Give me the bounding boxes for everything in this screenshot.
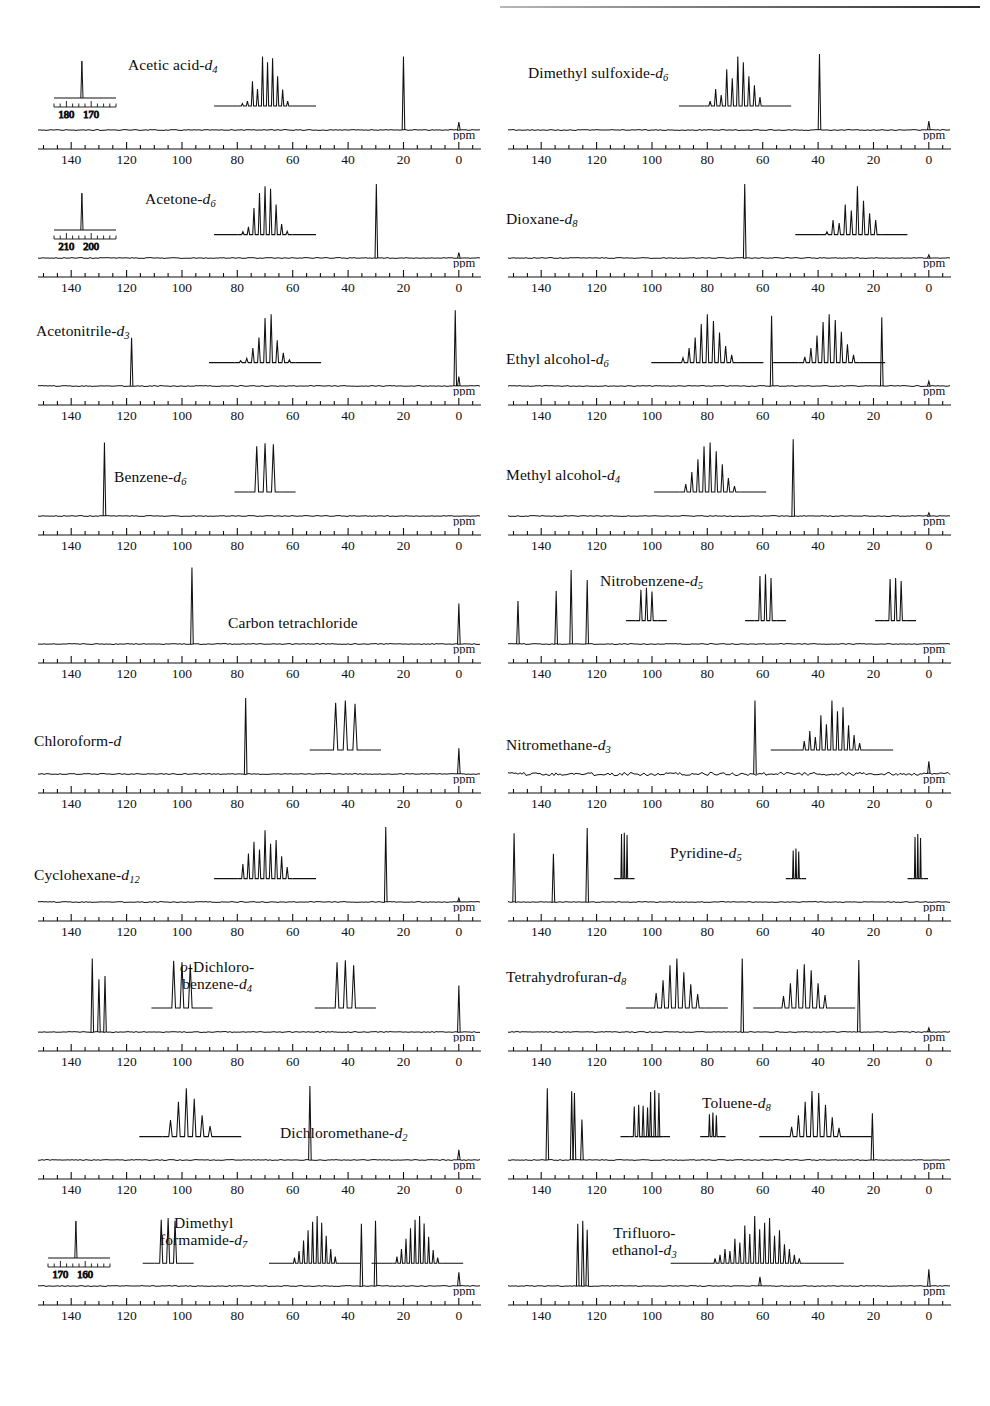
spectrum-peak [98,979,101,1032]
expansion-multiplet [649,958,704,1008]
axis-line-and-ticks [38,1298,481,1305]
spectrum-peak [103,442,106,516]
axis-tick-label: 20 [397,280,411,295]
axis-tick-label: 60 [286,1054,300,1069]
axis-line-and-ticks [508,1044,951,1051]
ppm-axis: 140120100806040200 [32,912,487,942]
ppm-unit-label: ppm [923,384,946,396]
inset-tick-label: 160 [77,1269,93,1280]
spectrum-peak [552,854,555,902]
spectrum-peak [880,317,883,386]
spectrum-peak [792,439,795,516]
axis-tick-label: 20 [867,666,881,681]
axis-tick-label: 120 [116,1054,137,1069]
axis-tick-label: 100 [172,152,193,167]
solvent-name-label: Cyclohexane-d12 [34,866,140,885]
spectrum-plot: ppmDichloromethane-d2 [32,1072,487,1170]
axis-tick-label: 40 [341,280,355,295]
ppm-axis: 140120100806040200 [502,1170,957,1200]
axis-tick-label: 40 [811,796,825,811]
solvent-name-label: Dioxane-d8 [506,210,578,229]
axis-line-and-ticks [508,528,951,535]
expansion-multiplet [635,588,657,621]
axis-tick-label: 80 [231,1182,245,1197]
baseline [508,902,950,903]
axis-tick-label: 40 [811,152,825,167]
spectrum-peak [458,748,461,774]
spectrum-plot: ppmCarbon tetrachloride [32,556,487,654]
axis-tick-label: 100 [172,280,193,295]
axis-tick-label: 120 [116,924,137,939]
spectrum-peak [743,184,746,258]
spectrum-peak [191,568,194,644]
spectrum-plot: ppmAcetonitrile-d3 [32,298,487,396]
spectrum-panel: ppmNitromethane-d3140120100806040200 [502,684,957,814]
expansion-multiplet [326,700,365,750]
axis-tick-label: 0 [455,1054,462,1069]
axis-tick-label: 80 [701,538,715,553]
solvent-name-label: Benzene-d6 [114,468,187,487]
axis-tick-label: 120 [116,666,137,681]
axis-tick-label: 40 [341,538,355,553]
ppm-axis: 140120100806040200 [502,526,957,556]
axis-tick-label: 140 [61,924,82,939]
axis-tick-label: 120 [586,666,607,681]
axis-tick-label: 0 [925,1182,932,1197]
axis-tick-label: 100 [642,666,663,681]
axis-tick-label: 20 [867,1308,881,1323]
expansion-multiplet [885,578,907,621]
axis-tick-label: 0 [925,152,932,167]
axis-tick-label: 40 [341,152,355,167]
axis-tick-label: 80 [701,1308,715,1323]
spectrum-peak [586,1230,589,1286]
inset-tick-label: 180 [59,109,75,120]
spectrum-plot: ppmToluene-d8 [502,1072,957,1170]
axis-tick-label: 140 [531,280,552,295]
axis-tick-label: 80 [701,152,715,167]
axis-tick-label: 140 [61,1054,82,1069]
axis-tick-label: 120 [586,1308,607,1323]
axis-line-and-ticks [38,1044,481,1051]
inset-tick-label: 210 [59,241,75,252]
axis-tick-label: 60 [756,280,770,295]
baseline [508,644,950,645]
spectrum-peak [759,1277,762,1286]
spectrum-peak [104,976,107,1032]
figure-page: 180170ppmAcetic acid-d414012010080604020… [0,0,990,1406]
axis-line-and-ticks [508,786,951,793]
spectrum-panel: ppmPyridine-d5140120100806040200 [502,814,957,942]
axis-tick-label: 60 [756,1054,770,1069]
axis-line-and-ticks [508,914,951,921]
spectrum-peak [754,700,757,774]
axis-tick-label: 80 [231,280,245,295]
spectrum-plot: ppmDioxane-d8 [502,170,957,268]
baseline [38,644,480,645]
axis-tick-label: 20 [397,538,411,553]
axis-tick-label: 80 [701,666,715,681]
axis-tick-label: 20 [397,1182,411,1197]
axis-tick-label: 120 [586,1054,607,1069]
axis-tick-label: 100 [172,666,193,681]
axis-line-and-ticks [508,1172,951,1179]
axis-tick-label: 20 [867,1182,881,1197]
axis-tick-label: 140 [531,924,552,939]
axis-tick-label: 100 [642,1182,663,1197]
ppm-unit-label: ppm [923,256,946,268]
axis-tick-label: 0 [925,924,932,939]
axis-tick-label: 40 [341,1182,355,1197]
baseline [508,1160,950,1161]
axis-tick-label: 120 [586,538,607,553]
axis-tick-label: 120 [586,408,607,423]
axis-tick-label: 0 [925,1054,932,1069]
axis-tick-label: 80 [231,1054,245,1069]
axis-tick-label: 40 [811,280,825,295]
spectrum-peak [581,1119,584,1160]
axis-tick-label: 140 [531,1054,552,1069]
spectrum-plot: 180170ppmAcetic acid-d4 [32,40,487,140]
ppm-axis: 140120100806040200 [32,784,487,814]
axis-tick-label: 60 [756,408,770,423]
spectrum-peak [454,310,457,386]
axis-tick-label: 20 [397,152,411,167]
spectrum-panel: ppmDichloromethane-d2140120100806040200 [32,1072,487,1200]
expansion-multiplet [235,314,296,362]
